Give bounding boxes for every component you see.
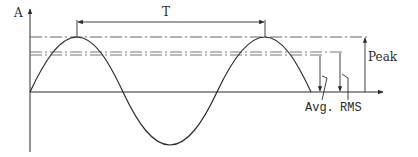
sine-wave-diagram: A T Peak Avg. RMS <box>0 0 418 157</box>
period-label: T <box>162 5 170 19</box>
rms-leader <box>342 74 348 100</box>
avg-label: Avg. <box>305 101 334 115</box>
y-axis-label: A <box>13 6 23 20</box>
peak-label: Peak <box>368 50 398 64</box>
avg-leader <box>322 76 327 100</box>
rms-label: RMS <box>340 101 362 115</box>
sine-wave <box>30 37 311 145</box>
